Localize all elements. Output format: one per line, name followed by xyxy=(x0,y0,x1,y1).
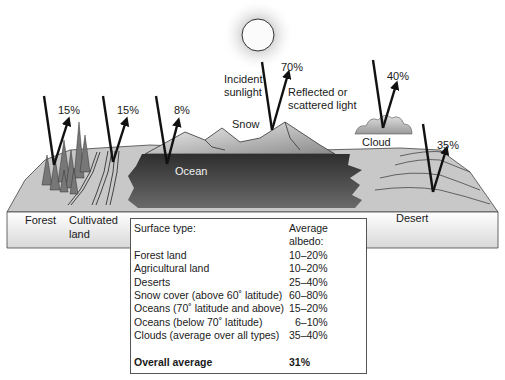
albedo-cell: 60–80% xyxy=(289,289,364,302)
table-row: Deserts 25–40% xyxy=(134,276,366,289)
reflected-label-line2: scattered light xyxy=(288,99,356,112)
table-total-row: Overall average 31% xyxy=(134,356,366,369)
ocean-area xyxy=(128,154,362,208)
incident-label-line2: sunlight xyxy=(224,86,262,99)
surface-cell: Oceans (below 70˚ latitude) xyxy=(134,316,289,329)
surface-cell: Forest land xyxy=(134,249,289,262)
ocean-label: Ocean xyxy=(175,165,207,178)
table-header-row: Surface type: Average albedo: xyxy=(134,222,366,235)
table-row: Oceans (below 70˚ latitude) 6–10% xyxy=(134,316,366,329)
snow-reflection-percent: 70% xyxy=(281,61,303,74)
table-row: Forest land 10–20% xyxy=(134,249,366,262)
overall-average-label: Overall average xyxy=(134,356,289,369)
table-spacer xyxy=(134,343,366,356)
cloud-reflection-percent: 40% xyxy=(387,70,409,83)
albedo-cell: 25–40% xyxy=(289,276,364,289)
surface-cell: Deserts xyxy=(134,276,289,289)
surface-cell: Snow cover (above 60˚ latitude) xyxy=(134,289,289,302)
surface-cell: Clouds (average over all types) xyxy=(134,329,289,342)
surface-cell: Agricultural land xyxy=(134,262,289,275)
average-albedo-header: Average albedo: xyxy=(289,222,364,235)
cultivated-label-line2: land xyxy=(69,228,90,241)
albedo-cell: 10–20% xyxy=(289,249,364,262)
albedo-table: Surface type: Average albedo: Forest lan… xyxy=(130,218,367,374)
table-row: Agricultural land 10–20% xyxy=(134,262,366,275)
surface-type-header: Surface type: xyxy=(134,222,289,235)
reflected-label-line1: Reflected or xyxy=(288,86,347,99)
cloud-label: Cloud xyxy=(362,136,391,149)
albedo-cell: 15–20% xyxy=(289,302,364,315)
cultivated-label-line1: Cultivated xyxy=(69,214,118,227)
forest-reflection-percent: 15% xyxy=(58,104,80,117)
albedo-cell: 10–20% xyxy=(289,262,364,275)
surface-cell: Oceans (70˚ latitude and above) xyxy=(134,302,289,315)
albedo-cell: 35–40% xyxy=(289,329,364,342)
desert-label: Desert xyxy=(396,212,428,225)
table-row: Clouds (average over all types) 35–40% xyxy=(134,329,366,342)
incident-label-line1: Incident xyxy=(224,73,263,86)
forest-label: Forest xyxy=(25,214,56,227)
overall-average-value: 31% xyxy=(289,356,364,369)
table-row: Snow cover (above 60˚ latitude) 60–80% xyxy=(134,289,366,302)
cultivated-reflection-percent: 15% xyxy=(117,104,139,117)
ocean-reflection-percent: 8% xyxy=(174,104,190,117)
albedo-cell: 6–10% xyxy=(289,316,364,329)
desert-reflection-percent: 35% xyxy=(437,139,459,152)
table-row: Oceans (70˚ latitude and above) 15–20% xyxy=(134,302,366,315)
snow-label: Snow xyxy=(232,118,260,131)
